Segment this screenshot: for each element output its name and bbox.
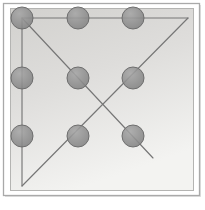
- node-middle-center[interactable]: [67, 67, 89, 89]
- grid-diagram-svg: [0, 0, 205, 210]
- node-middle-left[interactable]: [11, 67, 33, 89]
- node-top-left[interactable]: [11, 7, 33, 29]
- node-bottom-left[interactable]: [11, 125, 33, 147]
- node-top-right[interactable]: [122, 7, 144, 29]
- node-top-center[interactable]: [67, 7, 89, 29]
- node-bottom-right[interactable]: [122, 125, 144, 147]
- node-middle-right[interactable]: [122, 67, 144, 89]
- figure-container: [0, 0, 205, 210]
- node-bottom-center[interactable]: [67, 125, 89, 147]
